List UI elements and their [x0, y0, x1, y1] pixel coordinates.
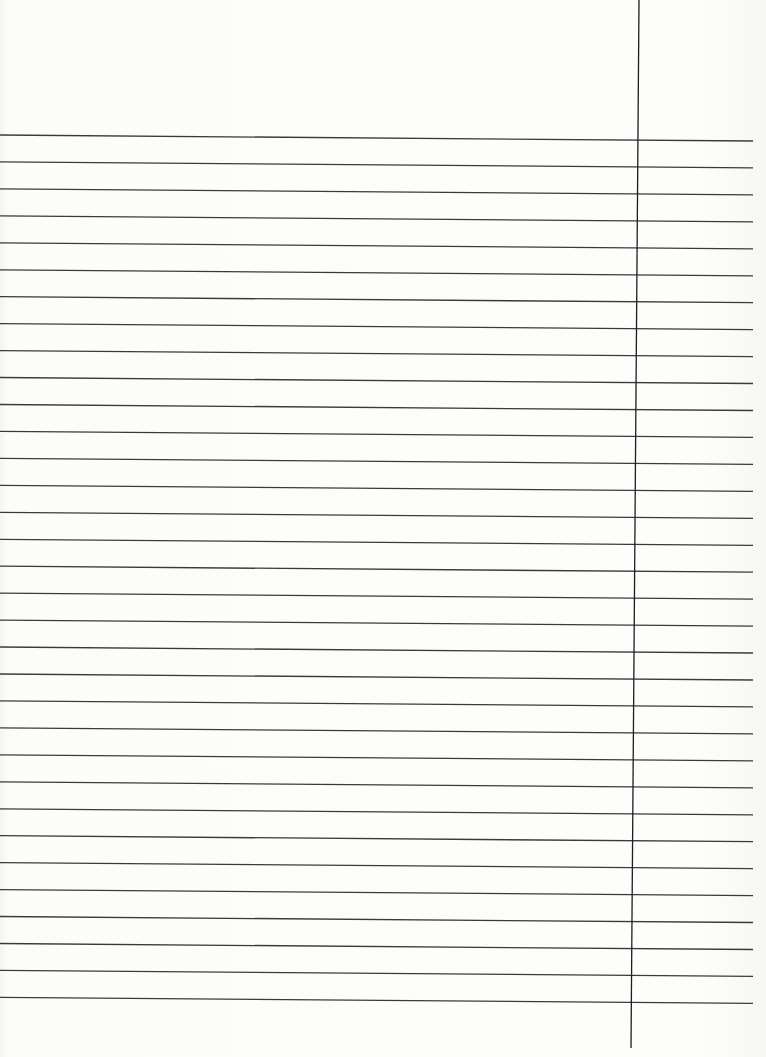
ruled-line: [0, 944, 753, 950]
ruled-line: [0, 674, 753, 680]
ruled-line: [0, 162, 753, 168]
ruled-line: [0, 351, 753, 357]
ruled-line: [0, 701, 753, 707]
ruled-line: [0, 378, 753, 384]
ruled-line: [0, 890, 753, 896]
ruled-line: [0, 782, 753, 788]
ruled-lines: [0, 0, 766, 1057]
ruled-line: [0, 270, 753, 276]
ruled-line: [0, 755, 753, 761]
ruled-line: [0, 458, 753, 464]
margin-line: [631, 0, 639, 1048]
ruled-line: [0, 135, 753, 141]
ruled-line: [0, 836, 753, 842]
ruled-line: [0, 728, 753, 734]
ruled-line: [0, 863, 753, 869]
ruled-line: [0, 485, 753, 491]
ruled-line: [0, 620, 753, 626]
ruled-line: [0, 431, 753, 437]
ruled-line: [0, 405, 753, 411]
ruled-line: [0, 647, 753, 653]
ruled-line: [0, 997, 753, 1003]
ruled-line: [0, 970, 753, 976]
ruled-line: [0, 512, 753, 518]
ruled-line: [0, 809, 753, 815]
ruled-line: [0, 539, 753, 545]
ruled-line: [0, 593, 753, 599]
ruled-line: [0, 917, 753, 923]
ruled-line: [0, 216, 753, 222]
ruled-line: [0, 189, 753, 195]
ruled-line: [0, 566, 753, 572]
ruled-line: [0, 297, 753, 303]
ruled-line: [0, 324, 753, 330]
ruled-line: [0, 243, 753, 249]
ruled-paper-page: [0, 0, 766, 1057]
